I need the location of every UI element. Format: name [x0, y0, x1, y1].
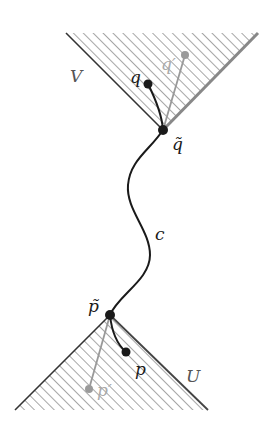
point-q [144, 80, 153, 89]
label-q: q [130, 67, 141, 87]
region-v [66, 33, 258, 130]
label-q-tilde: q̃ [172, 134, 183, 154]
label-q-prime: q′ [161, 54, 176, 74]
label-c: c [155, 224, 165, 244]
point-q-prime [181, 51, 189, 59]
point-p [122, 348, 131, 357]
label-p-tilde: p̃ [88, 296, 99, 316]
curve-c [110, 130, 163, 315]
label-v: V [70, 66, 84, 86]
point-p-prime [85, 385, 93, 393]
point-q-tilde [158, 125, 168, 135]
point-p-tilde [105, 310, 115, 320]
label-p: p [135, 359, 146, 379]
label-p-prime: p′ [97, 380, 112, 400]
label-u: U [186, 366, 201, 386]
causal-diagram: V q q′ q̃ c p̃ p U p′ [0, 0, 276, 429]
